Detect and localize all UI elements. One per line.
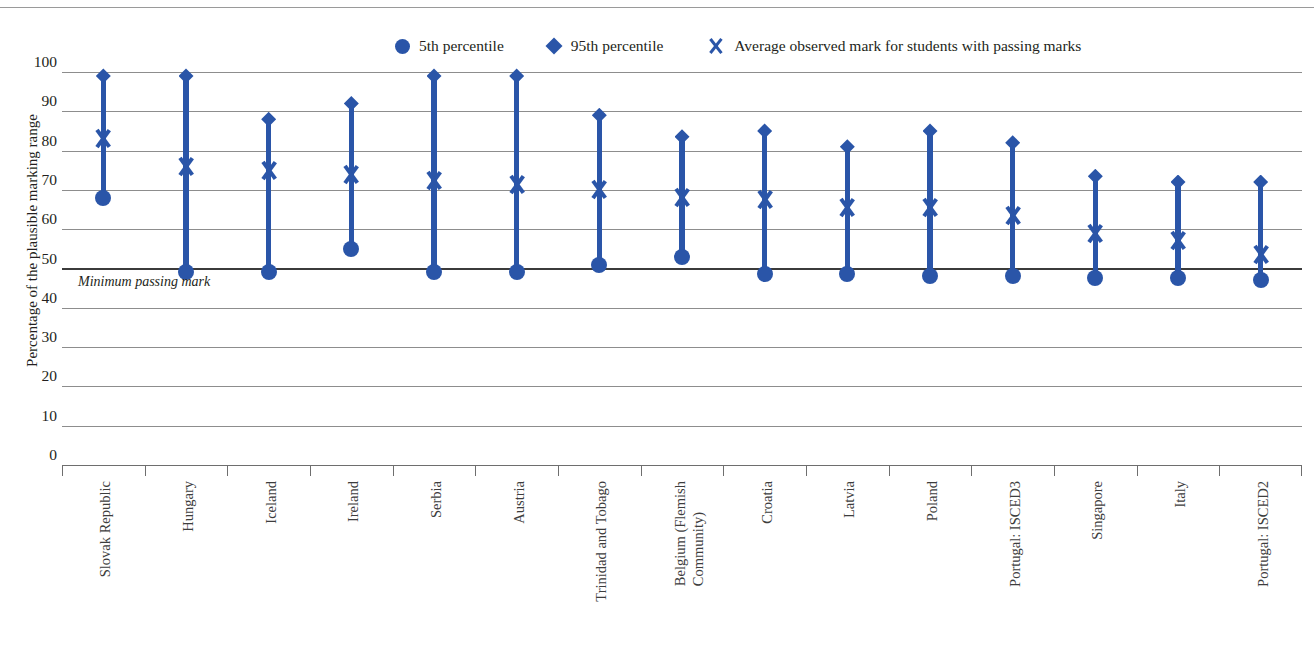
point-average-mark — [259, 160, 279, 181]
point-average-mark — [837, 197, 857, 218]
x-axis-tick — [558, 465, 559, 476]
x-axis-tick — [723, 465, 724, 476]
point-5th-percentile — [509, 264, 525, 280]
point-95th-percentile — [179, 68, 194, 83]
point-5th-percentile — [343, 241, 359, 257]
range-bar — [266, 119, 271, 272]
x-axis-label: Slovak Republic — [96, 481, 114, 577]
point-average-mark — [424, 170, 444, 191]
x-axis-label: Hungary — [179, 481, 197, 532]
x-axis-label: Portugal: ISCED2 — [1254, 481, 1272, 587]
top-divider — [0, 7, 1314, 8]
y-axis-tick-label: 60 — [0, 211, 57, 227]
x-axis-label: Iceland — [262, 481, 280, 524]
x-axis-tick — [1301, 465, 1302, 476]
point-5th-percentile — [1005, 268, 1021, 284]
y-axis-tick-label: 0 — [0, 447, 57, 463]
y-axis-tick-label: 90 — [0, 93, 57, 109]
gridline-20 — [62, 386, 1302, 387]
point-95th-percentile — [96, 68, 111, 83]
point-5th-percentile — [261, 264, 277, 280]
point-average-mark — [341, 164, 361, 185]
point-5th-percentile — [922, 268, 938, 284]
point-5th-percentile — [1170, 270, 1186, 286]
point-95th-percentile — [757, 123, 772, 138]
x-axis-label: Serbia — [427, 481, 445, 518]
point-average-mark — [93, 128, 113, 149]
point-5th-percentile — [839, 266, 855, 282]
point-95th-percentile — [592, 108, 607, 123]
point-average-mark — [589, 179, 609, 200]
y-axis-tick-label: 80 — [0, 133, 57, 149]
gridline-90 — [62, 111, 1302, 112]
x-axis-tick — [806, 465, 807, 476]
gridline-40 — [62, 308, 1302, 309]
legend-item-average-mark: Average observed mark for students with … — [707, 37, 1081, 55]
x-axis-label: Latvia — [840, 481, 858, 518]
circle-icon — [395, 39, 410, 54]
x-axis-label: Italy — [1171, 481, 1189, 508]
point-average-mark — [672, 187, 692, 208]
range-bar — [1258, 182, 1263, 280]
point-95th-percentile — [1005, 135, 1020, 150]
y-axis-tick-label: 70 — [0, 172, 57, 188]
point-average-mark — [507, 174, 527, 195]
chart-container: 5th percentile 95th percentile Average o… — [0, 0, 1314, 653]
x-axis-label: Belgium (Flemish Community) — [671, 481, 707, 586]
x-axis-label: Ireland — [344, 481, 362, 522]
point-95th-percentile — [509, 68, 524, 83]
point-95th-percentile — [675, 129, 690, 144]
y-axis-tick-label: 10 — [0, 408, 57, 424]
point-95th-percentile — [1088, 169, 1103, 184]
point-average-mark — [1085, 223, 1105, 244]
point-average-mark — [1251, 244, 1271, 265]
y-axis-tick-label: 20 — [0, 368, 57, 384]
x-axis-tick — [889, 465, 890, 476]
y-axis-tick-label: 50 — [0, 251, 57, 267]
gridline-10 — [62, 426, 1302, 427]
x-axis-tick — [145, 465, 146, 476]
point-average-mark — [1168, 230, 1188, 251]
x-axis-ticks — [62, 465, 1302, 477]
legend-label: Average observed mark for students with … — [734, 37, 1081, 55]
legend-item-95th-percentile: 95th percentile — [546, 37, 664, 55]
point-5th-percentile — [1087, 270, 1103, 286]
y-axis-tick-label: 30 — [0, 329, 57, 345]
point-5th-percentile — [757, 266, 773, 282]
point-5th-percentile — [591, 257, 607, 273]
point-95th-percentile — [840, 139, 855, 154]
x-icon — [707, 37, 725, 55]
point-5th-percentile — [674, 249, 690, 265]
x-axis-tick — [62, 465, 63, 476]
chart-legend: 5th percentile 95th percentile Average o… — [395, 33, 1081, 59]
x-axis-tick — [1137, 465, 1138, 476]
x-axis-label: Portugal: ISCED3 — [1006, 481, 1024, 587]
point-5th-percentile — [95, 190, 111, 206]
x-axis-labels: Slovak RepublicHungaryIcelandIrelandSerb… — [62, 481, 1302, 651]
y-axis-tick-label: 40 — [0, 290, 57, 306]
plot-area: 1009080706050403020100 — [62, 60, 1302, 472]
x-axis-tick — [1219, 465, 1220, 476]
x-axis-tick — [475, 465, 476, 476]
legend-label: 95th percentile — [571, 37, 664, 55]
point-average-mark — [920, 197, 940, 218]
minimum-passing-mark-annotation: Minimum passing mark — [78, 274, 210, 290]
point-average-mark — [755, 189, 775, 210]
point-95th-percentile — [261, 112, 276, 127]
x-axis-tick — [310, 465, 311, 476]
point-average-mark — [1003, 205, 1023, 226]
x-axis-tick — [971, 465, 972, 476]
x-axis-label: Croatia — [758, 481, 776, 524]
y-axis-tick-label: 100 — [0, 54, 57, 70]
point-95th-percentile — [344, 96, 359, 111]
x-axis-label: Austria — [510, 481, 528, 524]
x-axis-label: Trinidad and Tobago — [592, 481, 610, 602]
point-95th-percentile — [923, 123, 938, 138]
point-5th-percentile — [426, 264, 442, 280]
gridline-30 — [62, 347, 1302, 348]
x-axis-label: Poland — [923, 481, 941, 521]
point-95th-percentile — [1171, 175, 1186, 190]
x-axis-tick — [1054, 465, 1055, 476]
gridline-100 — [62, 72, 1302, 73]
gridline-50 — [62, 268, 1302, 270]
